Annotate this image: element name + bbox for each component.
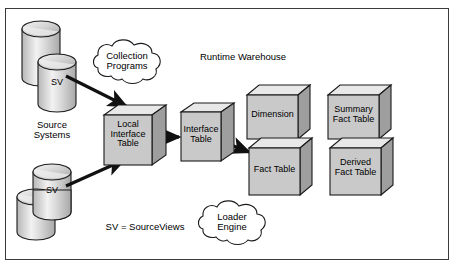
source-systems-label: Source Systems <box>20 120 84 141</box>
runtime-warehouse-label: Runtime Warehouse <box>196 52 290 62</box>
diagram-canvas: Runtime Warehouse Source Systems SV = So… <box>0 0 457 275</box>
dimension-label: Dimension <box>247 110 298 120</box>
summary-fact-table-label: Summary Fact Table <box>328 105 379 124</box>
loader-engine-label: Loader Engine <box>205 212 259 233</box>
legend-sourceviews: SV = SourceViews <box>90 222 200 232</box>
local-interface-table-label: Local Interface Table <box>104 120 152 149</box>
diagram-labels: Runtime Warehouse Source Systems SV = So… <box>0 0 457 275</box>
derived-fact-table-label: Derived Fact Table <box>330 158 381 177</box>
fact-table-label: Fact Table <box>249 165 300 175</box>
source-db-top-front-label: SV <box>43 78 71 88</box>
source-db-bottom-front-label: SV <box>38 186 66 196</box>
interface-table-label: Interface Table <box>181 125 221 144</box>
collection-programs-label: Collection Programs <box>100 51 154 72</box>
